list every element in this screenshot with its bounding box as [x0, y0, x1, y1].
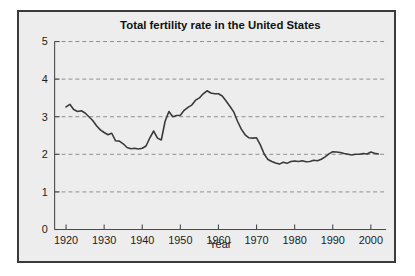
x-tick-label: 1990: [321, 234, 345, 246]
y-tick-label: 1: [42, 186, 48, 198]
y-axis-ticks: 012345: [42, 35, 60, 235]
chart-figure: Total fertility rate in the United State…: [17, 10, 396, 263]
x-tick-label: 1930: [92, 234, 116, 246]
x-tick-label: 1970: [244, 234, 268, 246]
x-tick-label: 1920: [54, 234, 78, 246]
x-tick-label: 1940: [130, 234, 154, 246]
x-axis-title: Year: [209, 238, 231, 250]
gridlines: [55, 42, 386, 192]
y-tick-label: 5: [42, 35, 48, 47]
y-tick-label: 4: [42, 73, 48, 85]
chart-title: Total fertility rate in the United State…: [120, 19, 320, 31]
fertility-rate-line-chart: Total fertility rate in the United State…: [19, 12, 394, 261]
x-tick-label: 2000: [359, 234, 383, 246]
y-tick-label: 0: [42, 223, 48, 235]
y-tick-label: 2: [42, 148, 48, 160]
data-series-line: [66, 91, 378, 164]
y-tick-label: 3: [42, 111, 48, 123]
x-tick-label: 1980: [283, 234, 307, 246]
x-tick-label: 1950: [168, 234, 192, 246]
